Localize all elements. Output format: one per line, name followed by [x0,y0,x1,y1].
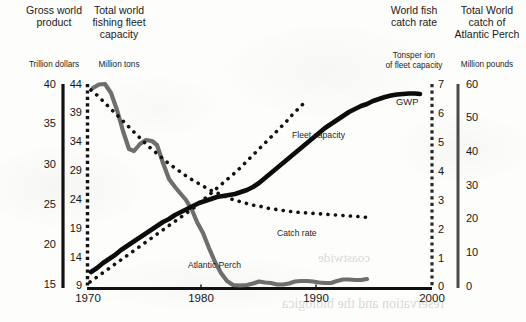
ytick-perch: 0 [466,280,472,292]
xtick-1990: 1990 [290,292,342,304]
ytick-catch-rate: 3 [438,194,444,206]
ytick-fleet: 29 [52,164,82,176]
ytick-fleet: 44 [52,78,82,90]
ytick-catch-rate: 1 [438,252,444,264]
ytick-perch: 50 [466,111,478,123]
ytick-fleet: 39 [52,106,82,118]
xtick-2000: 2000 [406,292,458,304]
ytick-perch: 60 [466,78,478,90]
ytick-catch-rate: 6 [438,107,444,119]
series-gwp [91,94,420,273]
ytick-gwp: 20 [24,238,56,250]
chart-figure: reservation and the biologica coastwide … [0,0,526,322]
xtick-1980: 1980 [175,292,227,304]
ytick-catch-rate: 2 [438,223,444,235]
xtick-1970: 1970 [62,292,114,304]
ytick-fleet: 19 [52,222,82,234]
ytick-catch-rate: 5 [438,136,444,148]
plot-area [0,0,526,322]
ytick-perch: 30 [466,179,478,191]
ytick-perch: 10 [466,246,478,258]
ytick-catch-rate: 7 [438,78,444,90]
ytick-gwp: 35 [24,117,56,129]
ytick-perch: 40 [466,145,478,157]
ytick-fleet: 24 [52,193,82,205]
ytick-fleet: 34 [52,135,82,147]
series-catch-rate [91,90,370,218]
series-label-gwp: GWP [396,96,418,107]
series-atlantic-perch [93,84,367,286]
ytick-catch-rate: 4 [438,165,444,177]
series-label-fleet-capacity: Fleet capacity [292,130,345,140]
ytick-fleet: 14 [52,251,82,263]
ytick-catch-rate: 0 [438,280,444,292]
ytick-fleet: 9 [52,279,82,291]
series-label-atlantic-perch: Atlantic Perch [188,260,241,270]
series-label-catch-rate: Catch rate [277,228,317,238]
ytick-perch: 20 [466,212,478,224]
